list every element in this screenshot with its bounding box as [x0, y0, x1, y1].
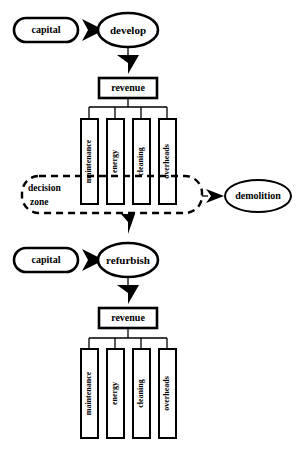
flow-arrow-refurbish-to-revenue [117, 277, 139, 304]
node-revenue-develop[interactable]: revenue [99, 78, 157, 98]
cost-box-energy-refurbish[interactable]: energy [107, 349, 124, 438]
cost-box-cleaning-refurbish[interactable]: cleaning [133, 349, 150, 438]
node-revenue-refurbish[interactable]: revenue [99, 308, 157, 328]
cost-box-group-develop: maintenance energy cleaning overheads [81, 119, 176, 204]
node-develop[interactable]: develop [98, 13, 158, 47]
cost-box-group-refurbish: maintenance energy cleaning overheads [81, 349, 176, 438]
cost-box-label: overheads [162, 376, 171, 411]
cost-box-maintenance-refurbish[interactable]: maintenance [81, 349, 98, 438]
node-capital-develop[interactable]: capital [14, 18, 78, 42]
cost-box-label: cleaning [136, 379, 145, 407]
flow-arrow-zone-to-refurbish [121, 214, 135, 234]
cost-box-overheads-refurbish[interactable]: overheads [159, 349, 176, 438]
node-capital-refurbish[interactable]: capital [14, 248, 78, 272]
cost-box-label: overheads [162, 144, 171, 179]
capital-refurbish-label: capital [32, 254, 61, 265]
cost-box-maintenance-develop[interactable]: maintenance [81, 119, 98, 204]
demolition-label: demolition [235, 190, 281, 201]
capital-develop-label: capital [32, 24, 61, 35]
triangle-down-arrow-icon [117, 285, 139, 304]
flow-arrow-zone-to-demolition [202, 189, 224, 203]
flow-arrow-develop-to-revenue [117, 47, 139, 74]
cost-box-label: cleaning [136, 147, 145, 175]
cost-box-label: energy [110, 150, 119, 173]
revenue-develop-label: revenue [111, 82, 145, 93]
cost-box-overheads-develop[interactable]: overheads [159, 119, 176, 204]
develop-label: develop [110, 24, 146, 36]
triangle-down-arrow-icon [117, 55, 139, 74]
revenue-refurbish-label: revenue [111, 312, 145, 323]
triangle-down-arrow-icon [121, 214, 135, 234]
diagram-canvas: capital develop revenue [0, 0, 296, 458]
node-refurbish[interactable]: refurbish [98, 243, 158, 277]
diagram-root: capital develop revenue [0, 0, 296, 458]
cost-box-label: maintenance [84, 371, 93, 415]
branch-connector-develop [89, 98, 167, 119]
branch-connector-refurbish [89, 328, 167, 349]
refurbish-label: refurbish [106, 254, 150, 266]
node-demolition[interactable]: demolition [225, 180, 291, 212]
cost-box-energy-develop[interactable]: energy [107, 119, 124, 204]
decision-zone-label-line2: zone [30, 197, 48, 207]
cost-box-label: energy [110, 382, 119, 405]
cost-box-cleaning-develop[interactable]: cleaning [133, 119, 150, 204]
decision-zone-label-line1: decision [28, 183, 61, 193]
triangle-right-arrow-icon [206, 189, 224, 203]
